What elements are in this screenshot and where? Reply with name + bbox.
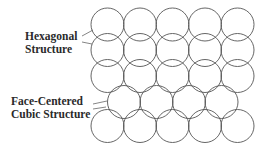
sphere — [156, 60, 189, 93]
sphere — [124, 110, 157, 143]
fcc-leader-line-2 — [93, 107, 106, 109]
sphere — [156, 34, 189, 67]
sphere — [221, 8, 254, 41]
sphere — [189, 110, 222, 143]
sphere — [189, 8, 222, 41]
sphere — [173, 86, 206, 119]
sphere — [124, 60, 157, 93]
sphere — [221, 34, 254, 67]
sphere — [156, 8, 189, 41]
sphere — [140, 86, 173, 119]
fcc-leader-line-1 — [93, 101, 107, 104]
sphere — [91, 60, 124, 93]
sphere — [124, 34, 157, 67]
hexagonal-leader-line-2 — [82, 42, 92, 44]
circle-row-4 — [108, 86, 239, 119]
sphere — [221, 60, 254, 93]
sphere — [124, 8, 157, 41]
hexagonal-leader-line-1 — [82, 30, 93, 36]
sphere — [91, 34, 124, 67]
sphere — [221, 110, 254, 143]
circle-row-5 — [91, 110, 254, 143]
sphere — [205, 86, 238, 119]
sphere-packing-diagram — [0, 0, 268, 151]
sphere — [189, 60, 222, 93]
sphere — [91, 110, 124, 143]
sphere — [91, 8, 124, 41]
sphere — [108, 86, 141, 119]
sphere — [189, 34, 222, 67]
sphere — [156, 110, 189, 143]
